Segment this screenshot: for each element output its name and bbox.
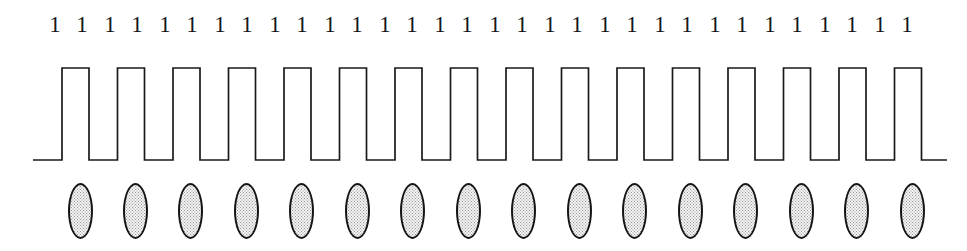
bit-cell-ellipse	[178, 183, 203, 239]
bit-cell-ellipse	[123, 183, 148, 239]
bit-cell-ellipse	[400, 183, 425, 239]
bit-label: 1	[183, 12, 201, 38]
bit-label: 1	[623, 12, 641, 38]
bit-label: 1	[156, 12, 174, 38]
bit-label: 1	[403, 12, 421, 38]
bit-cell-ellipse	[511, 183, 536, 239]
bit-label: 1	[788, 12, 806, 38]
bit-label: 1	[458, 12, 476, 38]
bit-label: 1	[678, 12, 696, 38]
bit-cell-ellipse	[567, 183, 592, 239]
bit-cell-ellipse	[289, 183, 314, 239]
bit-label: 1	[211, 12, 229, 38]
bit-label: 1	[843, 12, 861, 38]
bit-label: 1	[651, 12, 669, 38]
bit-cell-ellipse	[678, 183, 703, 239]
bit-label: 1	[898, 12, 916, 38]
waveform-panel	[0, 50, 967, 170]
bit-label: 1	[486, 12, 504, 38]
bit-label: 1	[128, 12, 146, 38]
bit-cell-row	[0, 170, 967, 251]
bit-label: 1	[46, 12, 64, 38]
bit-label: 1	[871, 12, 889, 38]
bit-label: 1	[816, 12, 834, 38]
square-wave-svg	[0, 50, 967, 170]
bit-cell-ellipse	[234, 183, 259, 239]
bit-label: 1	[568, 12, 586, 38]
bit-cell-ellipse	[345, 183, 370, 239]
bit-label: 1	[431, 12, 449, 38]
bit-label: 1	[321, 12, 339, 38]
waveform-figure: 11111111111111111111111111111111	[0, 0, 967, 251]
bit-label: 1	[541, 12, 559, 38]
bit-cell-ellipse	[68, 183, 93, 239]
bit-label: 1	[348, 12, 366, 38]
bit-label: 1	[513, 12, 531, 38]
bit-label: 1	[706, 12, 724, 38]
bit-cell-ellipse	[789, 183, 814, 239]
bit-label: 1	[101, 12, 119, 38]
bit-cell-ellipse	[733, 183, 758, 239]
bit-label: 1	[761, 12, 779, 38]
bit-cell-ellipse	[900, 183, 925, 239]
bit-label: 1	[238, 12, 256, 38]
bit-cell-ellipse	[844, 183, 869, 239]
bit-cell-ellipse	[456, 183, 481, 239]
bit-label: 1	[266, 12, 284, 38]
bit-label: 1	[596, 12, 614, 38]
bit-label: 1	[293, 12, 311, 38]
bit-label: 1	[733, 12, 751, 38]
bit-cell-ellipse	[622, 183, 647, 239]
bit-label: 1	[376, 12, 394, 38]
bit-label-row: 11111111111111111111111111111111	[0, 0, 967, 50]
bit-label: 1	[73, 12, 91, 38]
square-wave-path	[33, 68, 947, 160]
